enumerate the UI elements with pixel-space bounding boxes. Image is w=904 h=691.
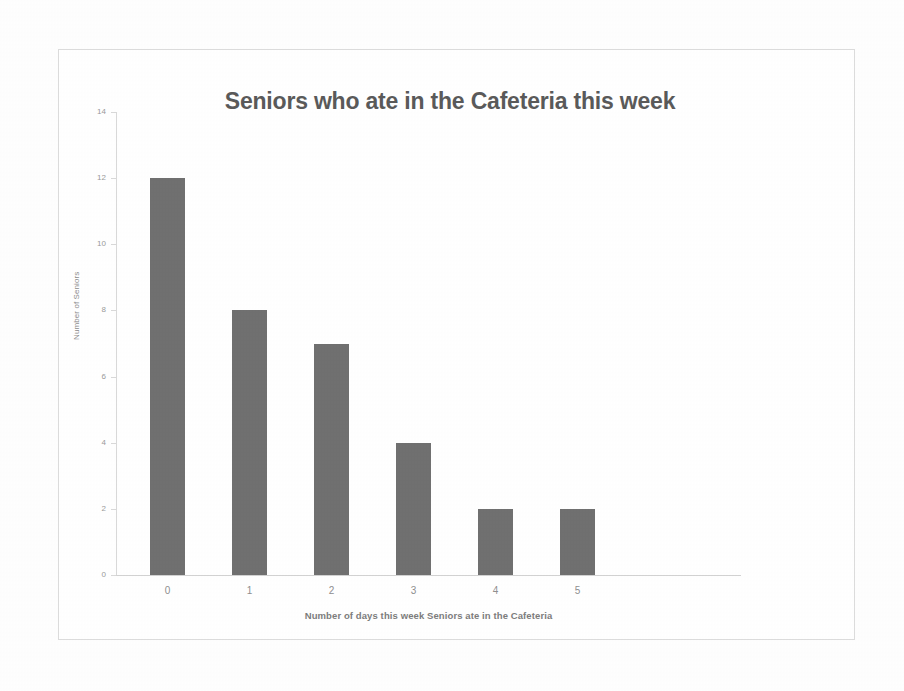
- x-axis-title: Number of days this week Seniors ate in …: [116, 610, 741, 621]
- bar-1: [232, 310, 267, 575]
- y-tick-label-4: 4: [82, 439, 106, 447]
- y-tick-label-0: 0: [82, 571, 106, 579]
- x-axis-line: [116, 575, 741, 576]
- bar-3: [396, 443, 431, 575]
- chart-title: Seniors who ate in the Cafeteria this we…: [100, 88, 800, 115]
- bar-2: [314, 344, 349, 576]
- x-tick-label-2: 2: [302, 585, 362, 596]
- x-tick-label-1: 1: [220, 585, 280, 596]
- x-tick-label-0: 0: [138, 585, 198, 596]
- y-tick-label-2: 2: [82, 505, 106, 513]
- x-tick-label-5: 5: [548, 585, 608, 596]
- x-tick-label-4: 4: [466, 585, 526, 596]
- y-tick-label-6: 6: [82, 373, 106, 381]
- y-tick-label-14: 14: [82, 108, 106, 116]
- plot-area: [116, 112, 736, 575]
- bar-0: [150, 178, 185, 575]
- scanned-page: Seniors who ate in the Cafeteria this we…: [0, 0, 904, 691]
- bar-4: [478, 509, 513, 575]
- y-tick-label-10: 10: [82, 240, 106, 248]
- y-tick-label-8: 8: [82, 306, 106, 314]
- bar-5: [560, 509, 595, 575]
- y-axis-tick-labels: 02468101214: [80, 0, 106, 691]
- x-tick-label-3: 3: [384, 585, 444, 596]
- y-tick-mark-0: [111, 575, 116, 576]
- y-tick-label-12: 12: [82, 174, 106, 182]
